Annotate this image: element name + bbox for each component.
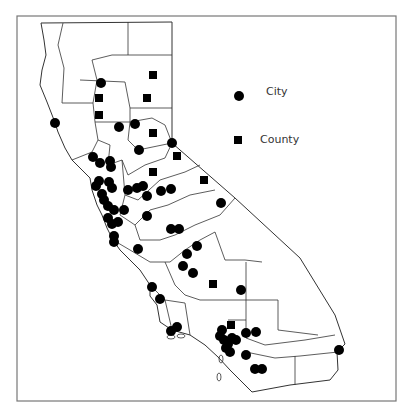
- city-marker: [174, 224, 184, 234]
- county-marker: [173, 152, 181, 160]
- county-boundaries: [58, 22, 338, 385]
- legend-county-label: County: [260, 133, 299, 146]
- city-marker: [334, 345, 344, 355]
- county-marker: [95, 111, 103, 119]
- county-marker: [149, 71, 157, 79]
- county-marker: [200, 176, 208, 184]
- county-marker: [95, 94, 103, 102]
- city-marker: [182, 249, 192, 259]
- city-marker: [96, 78, 106, 88]
- city-marker: [251, 327, 261, 337]
- map-border: [17, 16, 396, 401]
- city-marker: [156, 186, 166, 196]
- city-marker: [241, 328, 251, 338]
- city-marker: [216, 198, 226, 208]
- city-marker: [109, 237, 119, 247]
- county-marker: [227, 321, 235, 329]
- city-marker: [123, 185, 133, 195]
- county-marker: [209, 280, 217, 288]
- city-marker: [95, 158, 105, 168]
- city-marker: [113, 217, 123, 227]
- city-marker: [107, 183, 117, 193]
- legend-city-label: City: [266, 85, 288, 98]
- city-marker: [134, 145, 144, 155]
- city-marker: [192, 241, 202, 251]
- county-marker: [149, 168, 157, 176]
- state-outline: [40, 22, 345, 392]
- city-marker: [50, 118, 60, 128]
- city-marker: [142, 191, 152, 201]
- city-marker: [241, 350, 251, 360]
- city-marker: [133, 244, 143, 254]
- city-markers: [50, 78, 344, 374]
- city-marker: [257, 364, 267, 374]
- legend-city-dot-icon: [234, 91, 244, 101]
- legend-county-square-icon: [234, 136, 242, 144]
- city-marker: [91, 181, 101, 191]
- county-marker: [149, 129, 157, 137]
- city-marker: [114, 122, 124, 132]
- channel-islands: [167, 334, 223, 381]
- city-marker: [231, 335, 241, 345]
- city-marker: [138, 181, 148, 191]
- city-marker: [225, 347, 235, 357]
- city-marker: [178, 261, 188, 271]
- city-marker: [236, 285, 246, 295]
- city-marker: [119, 205, 129, 215]
- city-marker: [188, 268, 198, 278]
- city-marker: [172, 322, 182, 332]
- city-marker: [130, 119, 140, 129]
- city-marker: [106, 162, 116, 172]
- california-map: [0, 0, 412, 412]
- county-markers: [95, 71, 235, 329]
- city-marker: [147, 282, 157, 292]
- city-marker: [167, 138, 177, 148]
- city-marker: [166, 184, 176, 194]
- county-marker: [143, 94, 151, 102]
- city-marker: [217, 325, 227, 335]
- city-marker: [109, 205, 119, 215]
- city-marker: [142, 211, 152, 221]
- city-marker: [155, 294, 165, 304]
